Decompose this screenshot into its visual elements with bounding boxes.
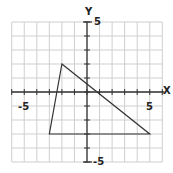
x-tick-label-neg5: -5 — [18, 102, 29, 112]
x-tick-label-5: 5 — [146, 102, 153, 112]
x-axis-label: X — [163, 86, 171, 96]
y-tick-label-5: 5 — [94, 17, 101, 27]
y-tick-label-neg5: -5 — [93, 157, 104, 167]
axes — [12, 22, 165, 162]
coordinate-plane — [0, 0, 173, 173]
y-axis-label: Y — [85, 7, 92, 17]
